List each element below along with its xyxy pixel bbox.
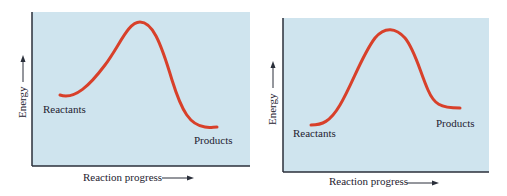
left-products-label: Products bbox=[194, 134, 233, 146]
left-y-arrow-icon bbox=[21, 55, 26, 82]
right-x-axis-label: Reaction progress bbox=[329, 175, 408, 187]
right-products-label: Products bbox=[436, 117, 475, 129]
right-y-arrow-icon bbox=[271, 61, 276, 88]
right-diagram-svg: Reactants Products Reaction progress Ene… bbox=[252, 0, 507, 196]
right-plot-area bbox=[283, 18, 489, 172]
right-reactants-label: Reactants bbox=[293, 127, 336, 139]
left-x-arrow-icon bbox=[162, 176, 194, 181]
right-y-axis-label: Energy bbox=[266, 93, 278, 125]
right-energy-diagram: Reactants Products Reaction progress Ene… bbox=[252, 0, 507, 196]
right-x-arrow-icon bbox=[407, 181, 439, 186]
left-diagram-svg: Reactants Products Reaction progress Ene… bbox=[0, 0, 255, 196]
left-x-axis-label: Reaction progress bbox=[83, 171, 162, 183]
left-energy-diagram: Reactants Products Reaction progress Ene… bbox=[0, 0, 255, 196]
left-reactants-label: Reactants bbox=[43, 103, 86, 115]
left-y-axis-label: Energy bbox=[16, 86, 28, 118]
